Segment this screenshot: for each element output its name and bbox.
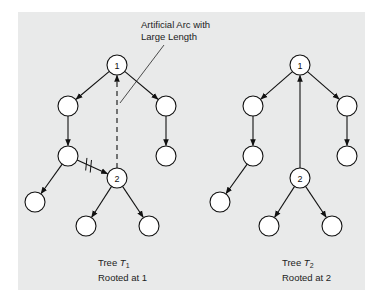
- node-label: 1: [114, 61, 119, 71]
- tree-1-node-i: [139, 216, 159, 236]
- tree-2-arc-a-b: [261, 72, 293, 100]
- node-circle: [322, 216, 342, 236]
- node-circle: [156, 146, 176, 166]
- node-circle: [243, 96, 263, 116]
- tree-2-node-g: [210, 192, 230, 212]
- node-circle: [76, 216, 96, 236]
- tree-2-arc-d-g: [226, 164, 247, 193]
- tree-1-node-c: [156, 96, 176, 116]
- node-circle: [58, 146, 78, 166]
- tree-1-caption-root: Rooted at 1: [98, 272, 147, 284]
- tree-2-node-label-1: 1: [290, 55, 310, 75]
- tree-2-arc-f-h: [275, 186, 295, 217]
- tree-1-node-d: [58, 146, 78, 166]
- tree-1-arc-f-h: [92, 186, 112, 217]
- tree-2-arc-f-i: [306, 186, 327, 217]
- tree-2-node-b: [243, 96, 263, 116]
- annotation-line-1: Artificial Arc with: [141, 19, 210, 31]
- tree-1-node-label-1: 1: [107, 55, 127, 75]
- tree-1-arc-d-g: [41, 164, 62, 193]
- node-circle: [25, 192, 45, 212]
- tree-2-node-c: [337, 96, 357, 116]
- tree-1-arc-a-c: [125, 71, 158, 99]
- tree-2-arc-a-c: [308, 72, 340, 100]
- node-label: 2: [297, 174, 302, 184]
- tree-1-node-label-2: 2: [107, 168, 127, 188]
- tree-1-removed-arc-slash-2: [90, 160, 91, 173]
- node-circle: [337, 96, 357, 116]
- annotation-leader-line: [120, 45, 164, 103]
- node-label: 1: [297, 61, 302, 71]
- tree-1-node-b: [58, 96, 78, 116]
- tree-2-node-label-2: 2: [290, 168, 310, 188]
- tree-1-arc-a-b: [76, 71, 109, 99]
- node-circle: [210, 192, 230, 212]
- tree-2-node-i: [322, 216, 342, 236]
- tree-2-caption-title: Tree T2: [282, 257, 331, 272]
- annotation-line-2: Large Length: [141, 31, 210, 43]
- node-label: 2: [114, 174, 119, 184]
- tree-2-caption-root: Rooted at 2: [282, 272, 331, 284]
- tree-1-node-h: [76, 216, 96, 236]
- tree-diagram: 1212: [0, 0, 383, 301]
- tree-1-removed-arc-slash-1: [86, 158, 87, 171]
- tree-1-caption: Tree T1 Rooted at 1: [98, 257, 147, 284]
- tree-1-arc-d-f: [77, 160, 107, 174]
- node-circle: [337, 146, 357, 166]
- annotation-label: Artificial Arc with Large Length: [141, 19, 210, 43]
- tree-2-node-h: [259, 216, 279, 236]
- node-circle: [156, 96, 176, 116]
- node-circle: [139, 216, 159, 236]
- node-circle: [58, 96, 78, 116]
- tree-1-node-g: [25, 192, 45, 212]
- tree-2-node-e: [337, 146, 357, 166]
- node-circle: [259, 216, 279, 236]
- tree-1-caption-title: Tree T1: [98, 257, 147, 272]
- node-circle: [243, 146, 263, 166]
- tree-2-caption: Tree T2 Rooted at 2: [282, 257, 331, 284]
- tree-2-node-d: [243, 146, 263, 166]
- tree-1-arc-f-i: [123, 186, 144, 217]
- tree-1-node-e: [156, 146, 176, 166]
